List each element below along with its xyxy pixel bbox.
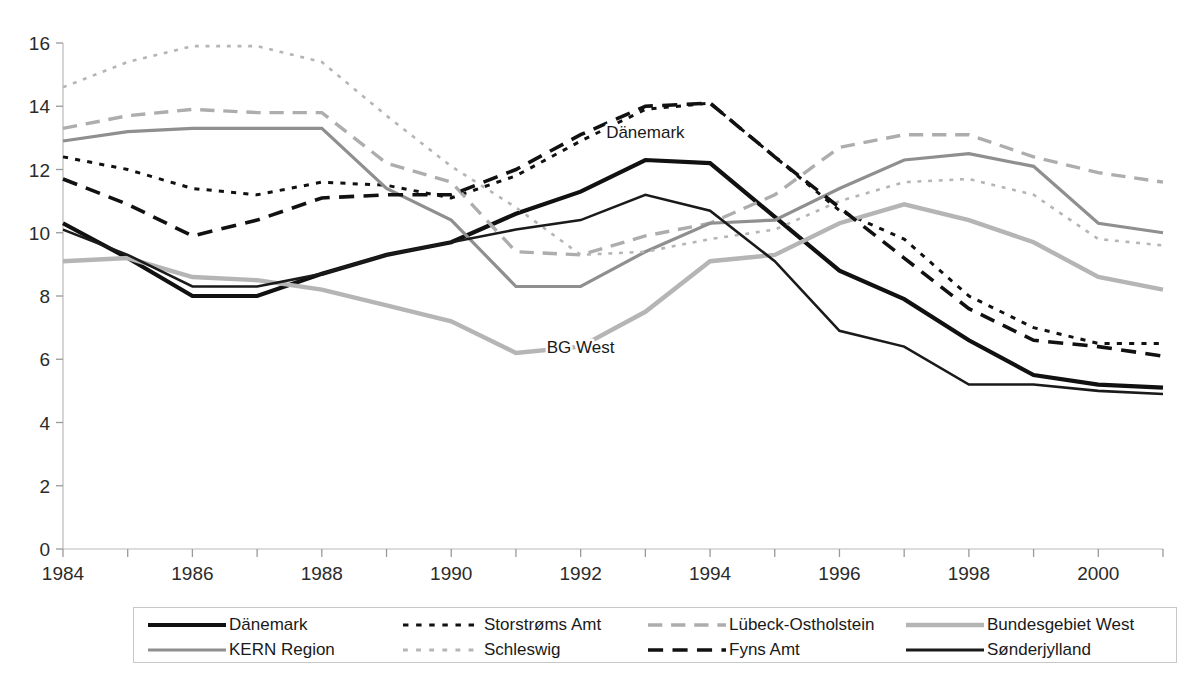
y-tick-label: 10 [29,223,50,244]
legend-label: Schleswig [484,641,561,658]
y-tick-label: 2 [39,476,50,497]
legend-item-l-beck-ostholstein[interactable]: Lübeck-Ostholstein [634,612,892,637]
x-tick-label: 1996 [818,563,860,584]
y-tick-label: 14 [29,96,51,117]
legend-item-fyns-amt[interactable]: Fyns Amt [634,637,892,662]
legend-item-s-nderjylland[interactable]: Sønderjylland [892,637,1162,662]
series-line-schleswig [63,46,1163,255]
legend-row: KERN RegionSchleswigFyns AmtSønderjyllan… [134,637,1176,662]
legend-label: Lübeck-Ostholstein [729,616,875,633]
legend-label: Storstrøms Amt [484,616,601,633]
x-tick-label: 1986 [171,563,213,584]
x-tick-label: 1988 [301,563,343,584]
y-axis: 0246810121416 [29,33,63,560]
legend-label: Fyns Amt [729,641,800,658]
chart-page: 0246810121416 19841986198819901992199419… [0,0,1192,694]
x-tick-label: 1992 [560,563,602,584]
legend-item-schleswig[interactable]: Schleswig [389,637,634,662]
legend-label: Bundesgebiet West [987,616,1134,633]
legend-line-swatch [906,643,984,657]
legend-label: Dänemark [229,616,307,633]
y-tick-label: 4 [39,413,50,434]
legend-line-swatch [906,618,984,632]
legend-line-swatch [648,618,726,632]
x-tick-label: 1998 [948,563,990,584]
line-chart-svg: 0246810121416 19841986198819901992199419… [0,0,1192,600]
plot-area: 0246810121416 19841986198819901992199419… [0,0,1192,600]
legend-label: Sønderjylland [987,641,1091,658]
inline-annotations: DänemarkDänemarkBG WestBG West [547,123,685,357]
legend-row: DänemarkStorstrøms AmtLübeck-Ostholstein… [134,612,1176,637]
x-tick-label: 2000 [1077,563,1119,584]
legend-label: KERN Region [229,641,335,658]
x-axis: 198419861988199019921994199619982000 [42,549,1163,584]
legend-line-swatch [648,643,726,657]
annotation-label: Dänemark [606,123,685,142]
x-tick-label: 1990 [430,563,472,584]
y-tick-label: 0 [39,539,50,560]
legend-item-kern-region[interactable]: KERN Region [134,637,389,662]
chart-legend: DänemarkStorstrøms AmtLübeck-Ostholstein… [133,607,1177,663]
legend-line-swatch [403,643,481,657]
legend-line-swatch [148,643,226,657]
y-tick-label: 12 [29,160,50,181]
annotation-label: BG West [547,338,615,357]
legend-item-bundesgebiet-west[interactable]: Bundesgebiet West [892,612,1162,637]
legend-line-swatch [403,618,481,632]
y-tick-label: 16 [29,33,50,54]
y-tick-label: 8 [39,286,50,307]
x-tick-label: 1994 [689,563,732,584]
x-tick-label: 1984 [42,563,85,584]
legend-item-d-nemark[interactable]: Dänemark [134,612,389,637]
legend-line-swatch [148,618,226,632]
y-tick-label: 6 [39,349,50,370]
legend-item-storstr-ms-amt[interactable]: Storstrøms Amt [389,612,634,637]
